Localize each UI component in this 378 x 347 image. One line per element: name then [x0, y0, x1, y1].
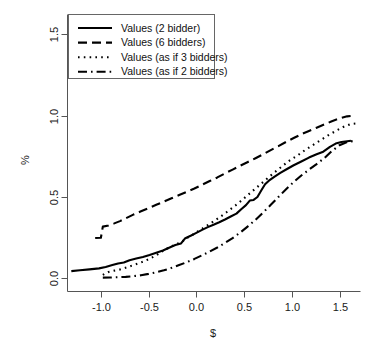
cdf-line-chart: 0.00.51.01.5 -1.0-0.50.00.51.01.5 % $ Va…: [0, 0, 378, 347]
x-axis-title: $: [210, 327, 216, 339]
chart-container: 0.00.51.01.5 -1.0-0.50.00.51.01.5 % $ Va…: [0, 0, 378, 347]
y-axis-title: %: [19, 155, 31, 165]
legend-label-2: Values (as if 3 bidders): [121, 51, 228, 63]
x-tick-label: 0.0: [189, 301, 204, 313]
x-tick-label: 1.5: [333, 301, 348, 313]
x-tick-label: -1.0: [92, 301, 111, 313]
legend-label-1: Values (6 bidders): [121, 36, 205, 48]
y-tick-label: 1.5: [48, 27, 60, 42]
y-tick-label: 1.0: [48, 109, 60, 124]
legend-label-3: Values (as if 2 bidders): [121, 65, 228, 77]
y-tick-label: 0.0: [48, 271, 60, 286]
y-tick-label: 0.5: [48, 190, 60, 205]
x-tick-label: 0.5: [237, 301, 252, 313]
legend-label-0: Values (2 bidder): [121, 22, 200, 34]
x-tick-label: -0.5: [140, 301, 159, 313]
x-tick-label: 1.0: [285, 301, 300, 313]
chart-legend: Values (2 bidder)Values (6 bidders)Value…: [69, 15, 228, 79]
